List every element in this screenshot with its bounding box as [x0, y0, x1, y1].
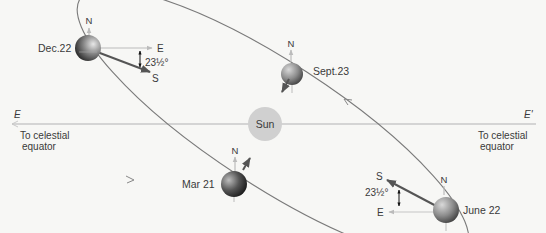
- tilt-label: 23½°: [365, 187, 388, 198]
- equator-left-caption-2: equator: [22, 141, 57, 152]
- date-label: Mar 21: [182, 178, 215, 190]
- tilt-label: 23½°: [145, 57, 168, 68]
- earth-sept23: N Sept.23: [281, 38, 349, 93]
- earth-globe: [75, 35, 101, 61]
- equator-left-label: E: [14, 109, 21, 120]
- date-label: Dec.22: [38, 42, 71, 54]
- south-label: S: [152, 73, 159, 84]
- earth-june22: E S 23½° N June 22: [365, 171, 501, 231]
- north-label: N: [232, 145, 239, 156]
- east-label: E: [157, 43, 164, 54]
- earth-globe: [433, 197, 459, 223]
- diagram-canvas: Sun E To celestial equator E' To celesti…: [0, 0, 546, 233]
- north-label: N: [441, 174, 448, 185]
- date-label: June 22: [463, 204, 501, 216]
- equator-right-caption-1: To celestial: [478, 130, 527, 141]
- equator-left-caption-1: To celestial: [20, 130, 69, 141]
- axis-arrow-icon: [243, 158, 250, 170]
- date-label: Sept.23: [313, 65, 349, 77]
- earth-dec22: N E S 23½° Dec.22: [38, 15, 168, 84]
- sun: Sun: [248, 107, 282, 141]
- orbit-direction-arrow: [126, 176, 134, 183]
- south-axis-arrow-icon: [92, 50, 150, 72]
- orbit-diagram: Sun E To celestial equator E' To celesti…: [0, 0, 546, 233]
- earth-globe: [221, 171, 247, 197]
- south-axis-arrow-icon: [387, 180, 440, 208]
- sun-label: Sun: [256, 118, 275, 130]
- earth-globe: [281, 63, 303, 85]
- east-label: E: [377, 207, 384, 218]
- north-label: N: [86, 15, 93, 26]
- north-label: N: [288, 38, 295, 49]
- south-label: S: [376, 171, 383, 182]
- equator-right-label: E': [524, 109, 534, 120]
- equator-right-caption-2: equator: [480, 141, 515, 152]
- earth-mar21: N Mar 21: [182, 145, 250, 202]
